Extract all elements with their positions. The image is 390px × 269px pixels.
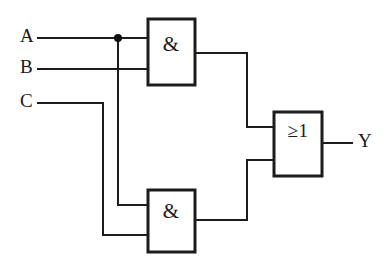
input-label-c: C [20, 90, 33, 111]
or-gate-symbol: ≥1 [288, 120, 309, 141]
and-gate-bottom-symbol: & [163, 199, 179, 223]
junction-dot-a-fanout [114, 34, 122, 42]
and-gate-top-symbol: & [163, 32, 179, 56]
logic-circuit-diagram: & & ≥1 A B C Y [0, 0, 390, 269]
input-label-b: B [20, 56, 33, 77]
wire-and-top-to-or [195, 53, 274, 127]
wire-a-branch-down [118, 38, 148, 205]
output-label-y: Y [358, 130, 372, 151]
output-label-layer: Y [358, 130, 372, 151]
wire-and-bottom-to-or [195, 160, 274, 220]
input-label-a: A [20, 25, 34, 46]
input-label-layer: A B C [20, 25, 34, 111]
junction-layer [114, 34, 122, 42]
wire-c-to-and-bottom [38, 103, 148, 235]
circuit-canvas-svg: & & ≥1 A B C Y [0, 0, 390, 269]
